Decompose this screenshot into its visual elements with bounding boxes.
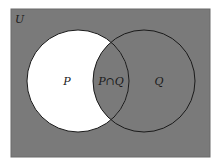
universe-label: U [15,13,25,26]
set-p-label: P [62,75,71,88]
set-q-label: Q [154,75,163,88]
venn-diagram: U P P∩Q Q [0,0,223,166]
intersection-label: P∩Q [97,75,124,88]
